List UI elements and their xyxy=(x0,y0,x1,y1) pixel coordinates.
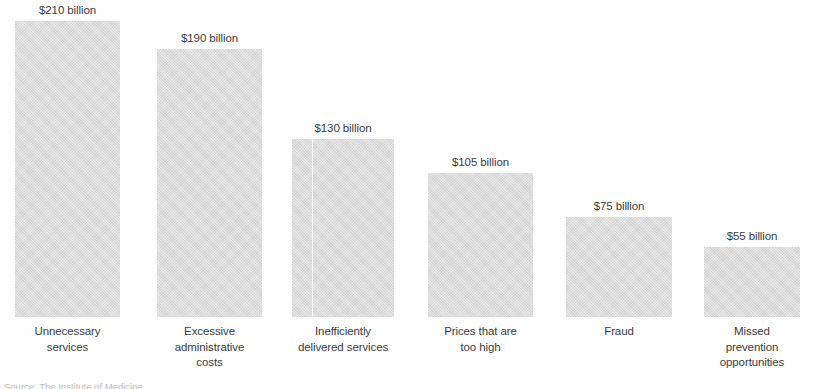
bar-rect xyxy=(157,49,262,317)
bar-value-label: $190 billion xyxy=(181,32,238,44)
bar-category-label: Prices that aretoo high xyxy=(406,324,556,355)
bar-rect xyxy=(566,217,672,317)
bar-category-line: Inefficiently xyxy=(268,324,418,340)
bar-value-label: $105 billion xyxy=(452,156,509,168)
bar-rect xyxy=(428,173,533,317)
bar-category-line: Prices that are xyxy=(406,324,556,340)
bar-rect xyxy=(292,139,394,317)
bar-category-line: prevention xyxy=(677,340,814,356)
bar-rect xyxy=(704,247,800,317)
bar-category-line: services xyxy=(0,340,143,356)
bar-group: $55 billionMissedpreventionopportunities xyxy=(704,247,800,317)
bar-category-label: Unnecessaryservices xyxy=(0,324,143,355)
bar-group: $75 billionFraud xyxy=(566,217,672,317)
bar-category-line: administrative xyxy=(135,340,285,356)
bar-category-label: Excessiveadministrativecosts xyxy=(135,324,285,371)
bar-category-label: Fraud xyxy=(544,324,694,340)
bar-value-label: $130 billion xyxy=(315,122,372,134)
bar-category-label: Missedpreventionopportunities xyxy=(677,324,814,371)
bar-group: $105 billionPrices that aretoo high xyxy=(428,173,533,317)
bar-group: $190 billionExcessiveadministrativecosts xyxy=(157,49,262,317)
source-note: Source: The Institute of Medicine xyxy=(4,381,143,389)
bar-seam-artifact xyxy=(312,139,313,317)
bar-rect xyxy=(15,21,120,317)
bar-category-label: Inefficientlydelivered services xyxy=(268,324,418,355)
bar-category-line: delivered services xyxy=(268,340,418,356)
bar-chart: $210 billionUnnecessaryservices$190 bill… xyxy=(0,0,814,389)
bar-category-line: costs xyxy=(135,355,285,371)
bar-group: $130 billionInefficientlydelivered servi… xyxy=(292,139,394,317)
bar-category-line: too high xyxy=(406,340,556,356)
bar-category-line: Fraud xyxy=(544,324,694,340)
bar-value-label: $210 billion xyxy=(39,4,96,16)
bar-category-line: Excessive xyxy=(135,324,285,340)
bar-category-line: opportunities xyxy=(677,355,814,371)
bar-category-line: Missed xyxy=(677,324,814,340)
bar-value-label: $75 billion xyxy=(594,200,645,212)
bar-group: $210 billionUnnecessaryservices xyxy=(15,21,120,317)
bar-category-line: Unnecessary xyxy=(0,324,143,340)
bar-value-label: $55 billion xyxy=(727,230,778,242)
